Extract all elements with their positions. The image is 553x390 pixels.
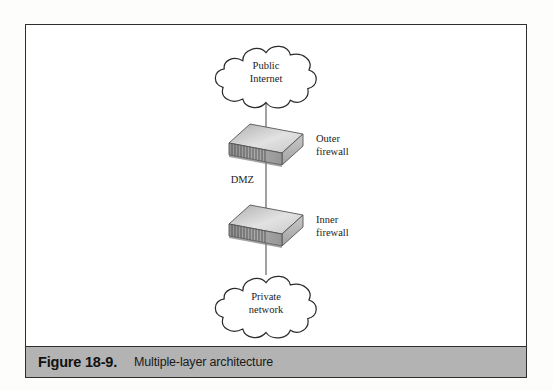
figure-caption-bar: Figure 18-9. Multiple-layer architecture <box>26 346 526 377</box>
node-inner-firewall[interactable]: Inner firewall <box>229 205 349 248</box>
dmz-label: DMZ <box>231 174 254 185</box>
private-network-label-line1: Private <box>251 291 281 302</box>
figure-frame: Public Internet Outer firewall DMZ Inner <box>25 24 527 378</box>
scanned-page: Public Internet Outer firewall DMZ Inner <box>0 0 553 390</box>
inner-firewall-label-line1: Inner <box>316 214 339 225</box>
node-outer-firewall[interactable]: Outer firewall <box>229 124 349 167</box>
node-private-network[interactable]: Private network <box>215 276 316 338</box>
dmz-zone-label: DMZ <box>231 174 254 185</box>
inner-firewall-label-line2: firewall <box>316 227 349 238</box>
network-diagram: Public Internet Outer firewall DMZ Inner <box>26 25 526 347</box>
node-public-internet[interactable]: Public Internet <box>215 46 316 108</box>
figure-number: Figure 18-9. <box>38 354 117 370</box>
outer-firewall-label-line2: firewall <box>316 146 349 157</box>
outer-firewall-label-line1: Outer <box>316 133 340 144</box>
diagram-canvas: Public Internet Outer firewall DMZ Inner <box>26 25 526 347</box>
figure-title: Multiple-layer architecture <box>134 355 273 369</box>
firewall-device-icon <box>229 124 303 167</box>
private-network-label-line2: network <box>249 304 284 315</box>
public-internet-label-line2: Internet <box>250 73 283 84</box>
public-internet-label-line1: Public <box>253 60 280 71</box>
firewall-device-icon <box>229 205 303 248</box>
